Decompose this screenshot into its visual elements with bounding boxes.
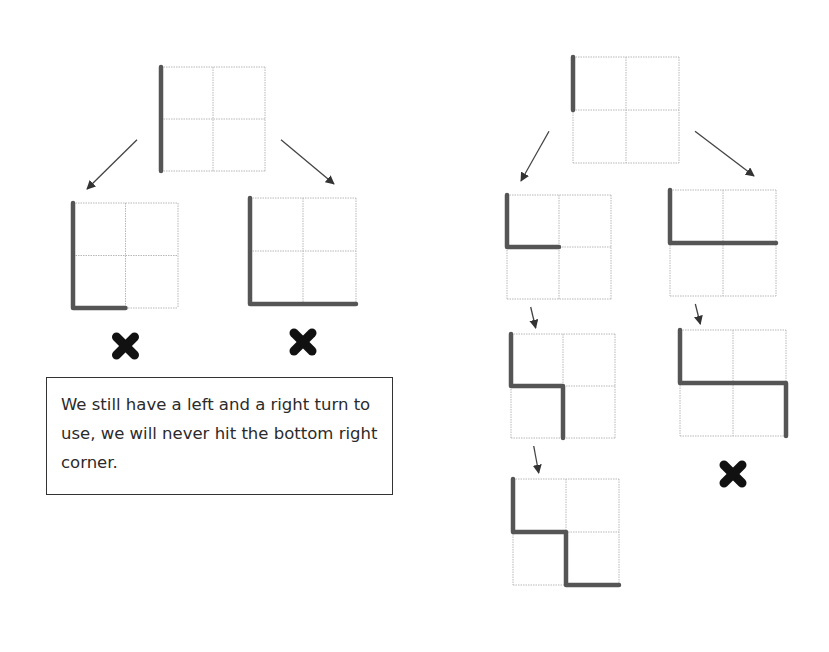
arrow-right-root-to-right-child-a [521,131,549,181]
grid-right-great-grandchild-a [513,479,619,585]
arrow-right-grandchild-a-to-right-great-grandchild-a [534,446,539,473]
explanation-text: We still have a left and a right turn to… [61,395,377,472]
grid-right-grandchild-b [680,330,786,436]
grid-right-child-a [507,195,611,299]
diagram-canvas [0,0,829,652]
grid-left-root [161,67,265,171]
cross-icon [724,465,742,483]
grid-left-child-a [73,203,178,308]
cross-icon [294,333,312,351]
arrow-right-root-to-right-child-b [695,131,754,176]
arrow-left-root-to-left-child-a [87,140,137,189]
grid-right-child-b [670,190,776,296]
path-line [511,334,563,438]
grid-left-child-b [250,198,356,304]
grid-right-root [573,57,679,163]
explanation-note: We still have a left and a right turn to… [46,377,393,495]
cross-icon [117,337,135,355]
grid-right-grandchild-a [511,334,615,438]
arrow-right-child-a-to-right-grandchild-a [531,307,536,328]
arrow-left-root-to-left-child-b [281,140,334,184]
path-line [507,195,559,247]
arrow-right-child-b-to-right-grandchild-b [695,304,700,324]
